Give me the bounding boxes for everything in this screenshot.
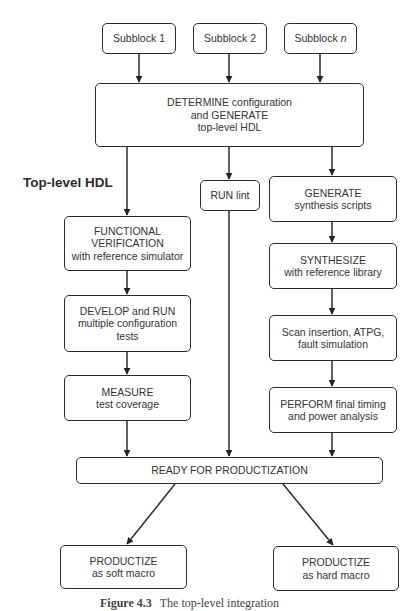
figure-caption-text: The top-level integration xyxy=(160,596,279,610)
node-text: VERIFICATION xyxy=(91,237,164,250)
node-text: PRODUCTIZE xyxy=(302,556,370,569)
functional-verification-box: FUNCTIONAL VERIFICATION with reference s… xyxy=(64,216,191,271)
node-text: RUN lint xyxy=(210,189,249,202)
productize-hard-macro-box: PRODUCTIZE as hard macro xyxy=(273,546,399,591)
subblock-2-box: Subblock 2 xyxy=(193,23,267,54)
node-text-italic-n: n xyxy=(341,32,347,44)
node-text: PERFORM final timing xyxy=(280,398,386,411)
subblock-n-box: Subblock n xyxy=(284,23,357,54)
figure-caption: Figure 4.3The top-level integration xyxy=(100,596,279,611)
top-level-hdl-label: Top-level HDL xyxy=(23,175,113,190)
node-text: PRODUCTIZE xyxy=(89,555,157,568)
ready-for-productization-box: READY FOR PRODUCTIZATION xyxy=(76,457,383,484)
node-text: Subblock n xyxy=(295,32,347,45)
generate-synthesis-scripts-box: GENERATE synthesis scripts xyxy=(269,176,397,222)
subblock-1-box: Subblock 1 xyxy=(102,23,176,54)
node-text: SYNTHESIZE xyxy=(300,254,366,267)
scan-insertion-box: Scan insertion, ATPG, fault simulation xyxy=(269,315,397,361)
node-text: Scan insertion, ATPG, xyxy=(282,326,385,339)
node-text: with reference library xyxy=(284,266,381,279)
node-text: DETERMINE configuration xyxy=(167,96,292,109)
node-text: fault simulation xyxy=(298,338,368,351)
develop-and-run-box: DEVELOP and RUN multiple configuration t… xyxy=(64,295,191,352)
node-text-prefix: Subblock xyxy=(295,32,341,44)
perform-timing-power-box: PERFORM final timing and power analysis xyxy=(269,387,397,433)
node-text: as soft macro xyxy=(92,567,155,580)
node-text: top-level HDL xyxy=(198,121,262,134)
node-text: FUNCTIONAL xyxy=(94,225,161,238)
node-text: MEASURE xyxy=(102,386,154,399)
productize-soft-macro-box: PRODUCTIZE as soft macro xyxy=(60,545,187,589)
node-text: test coverage xyxy=(96,398,159,411)
node-text: with reference simulator xyxy=(72,250,183,263)
synthesize-box: SYNTHESIZE with reference library xyxy=(269,243,397,289)
node-text: as hard macro xyxy=(302,569,369,582)
run-lint-box: RUN lint xyxy=(200,180,260,211)
node-text: and power analysis xyxy=(288,410,378,423)
node-text: Subblock 2 xyxy=(204,32,256,45)
node-text: GENERATE xyxy=(305,187,362,200)
figure-number: Figure 4.3 xyxy=(100,596,152,610)
node-text: multiple configuration xyxy=(78,317,177,330)
node-text: READY FOR PRODUCTIZATION xyxy=(151,464,308,477)
node-text: synthesis scripts xyxy=(294,199,371,212)
arrow-ready-to-hard xyxy=(283,484,333,545)
node-text: DEVELOP and RUN xyxy=(80,305,176,318)
node-text: tests xyxy=(116,330,138,343)
node-text: Subblock 1 xyxy=(113,32,165,45)
arrow-ready-to-soft xyxy=(127,484,175,544)
node-text: and GENERATE xyxy=(191,109,268,122)
measure-test-coverage-box: MEASURE test coverage xyxy=(64,375,191,421)
determine-configuration-box: DETERMINE configuration and GENERATE top… xyxy=(95,83,364,147)
